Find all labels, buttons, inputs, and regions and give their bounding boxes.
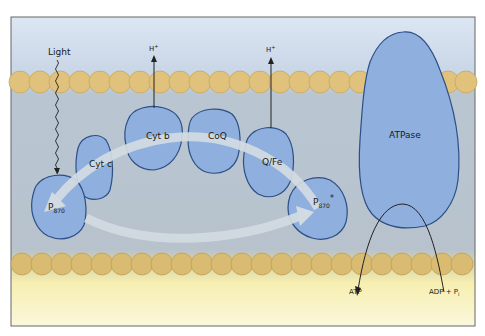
light-label: Light [48, 47, 71, 57]
coq-label: CoQ [208, 131, 227, 141]
adp-pi-label: ADP + Pi [429, 288, 459, 297]
atpase-label: ATPase [389, 130, 421, 140]
atp-label: ATP [349, 288, 362, 296]
photosynthesis-diagram: Light H+ H+ Cyt c Cyt b CoQ Q/Fe P870 P8… [0, 0, 485, 336]
qfe-label: Q/Fe [262, 157, 283, 167]
cyt-b-label: Cyt b [146, 131, 170, 141]
lower-lipid-layer [11, 253, 473, 275]
cyt-c-label: Cyt c [89, 159, 112, 169]
